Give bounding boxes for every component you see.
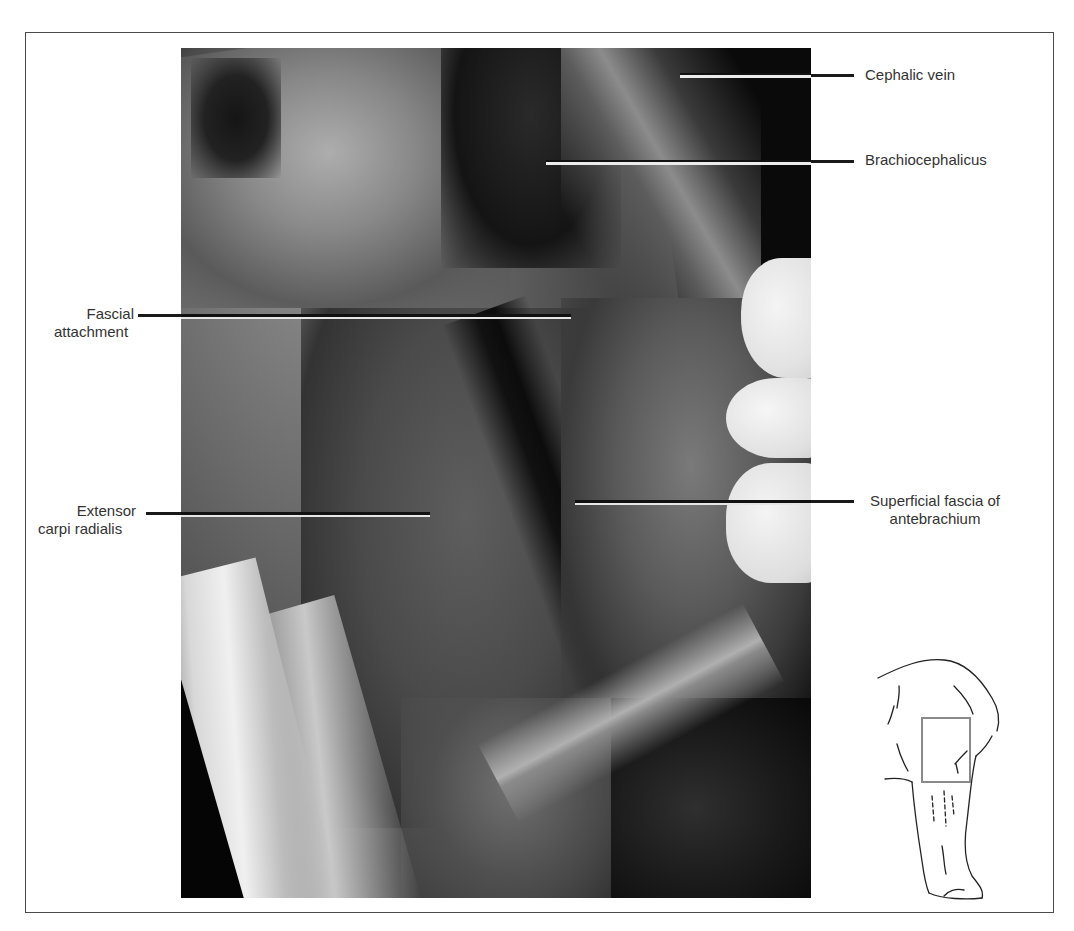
label-superficial-fascia-antebrachium: Superficial fascia of antebrachium [860,492,1010,528]
leader-line-cephalic-vein [680,75,811,78]
leader-line-extensor-carpi-radialis [181,512,430,515]
region-highlight-box [922,718,970,782]
leader-line-extensor-outer [146,512,181,515]
caption-cut-off: — — — — — — — — — — — — — — — — — — — — … [0,922,1074,931]
limb-outline-icon [878,660,999,899]
label-line: antebrachium [860,510,1010,528]
leader-line-brachiocephalicus [546,162,811,165]
label-fascial-attachment: Fascial attachment [50,305,134,341]
label-line: Superficial fascia of [860,492,1010,510]
leader-line-cephalic-vein-outer [811,74,854,77]
leader-line-fascial-attachment [181,314,571,317]
label-line: carpi radialis [38,520,142,538]
label-cephalic-vein: Cephalic vein [865,66,955,84]
label-extensor-carpi-radialis: Extensor carpi radialis [38,502,142,538]
label-brachiocephalicus: Brachiocephalicus [865,151,987,169]
label-line: Extensor [38,502,142,520]
caption-fragment: — — — — — — — — — — — — — — — — — — — — … [30,922,621,928]
leader-line-superficial-fascia-outer [811,500,854,503]
leader-line-superficial-fascia [575,500,811,503]
forelimb-orientation-sketch [872,636,1012,906]
label-line: Fascial [50,305,134,323]
leader-line-fascial-attachment-outer [138,314,181,317]
label-line: attachment [48,323,134,341]
leader-line-brachiocephalicus-outer [811,160,854,163]
dissection-photo [181,48,811,898]
gloved-finger [726,463,811,583]
photo-region-dark-top-left [191,58,281,178]
photo-region-brachiocephalicus [561,48,761,338]
